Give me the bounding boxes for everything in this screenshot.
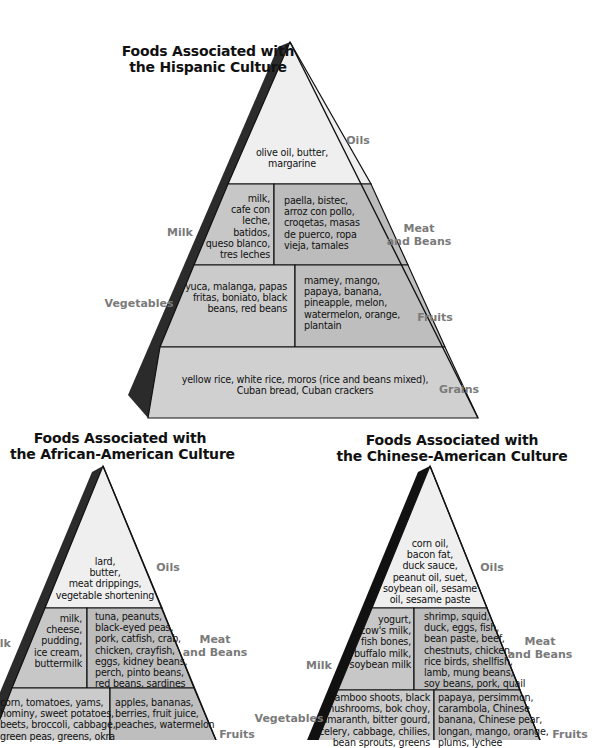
food-line: tuna, peanuts, xyxy=(95,611,195,622)
hispanic-label-oils: Oils xyxy=(338,134,378,147)
food-line: bamboo shoots, black xyxy=(318,692,430,703)
food-line: fritas, boniato, black xyxy=(180,292,287,303)
food-line: soybean oil, sesame xyxy=(375,583,485,594)
food-line: yellow rice, white rice, moros (rice and… xyxy=(160,374,450,385)
food-line: milk, xyxy=(200,193,270,204)
label-line: Meat xyxy=(180,633,250,646)
food-line: paella, bistec, xyxy=(284,195,384,206)
food-line: apples, bananas, xyxy=(115,697,210,708)
food-line: pineapple, melon, xyxy=(304,297,414,308)
food-line: arroz con pollo, xyxy=(284,206,384,217)
food-line: watermelon, orange, xyxy=(304,309,414,320)
food-line: tres leches xyxy=(200,249,270,260)
food-line: plantain xyxy=(304,320,414,331)
food-line: beets, broccoli, cabbage, xyxy=(0,719,102,730)
title-line: Foods Associated with xyxy=(108,43,308,59)
food-line: corn oil, xyxy=(375,538,485,549)
food-line: croqetas, masas xyxy=(284,217,384,228)
food-line: cheese, xyxy=(20,624,82,635)
food-line: soybean milk xyxy=(345,659,411,670)
food-line: ice cream, xyxy=(20,647,82,658)
chinese-american-label-milk: Milk xyxy=(299,659,339,672)
food-line: cafe con xyxy=(200,204,270,215)
food-line: peanut oil, suet, xyxy=(375,572,485,583)
label-line: Meat xyxy=(384,222,454,235)
chinese-american-label-fruits: Fruits xyxy=(545,728,595,741)
food-line: butter, xyxy=(50,567,160,578)
food-line: amaranth, bitter gourd, xyxy=(318,714,430,725)
food-line: vieja, tamales xyxy=(284,240,384,251)
food-line: black-eyed peas, xyxy=(95,622,195,633)
chinese-american-oils-text: corn oil, bacon fat, duck sauce, peanut … xyxy=(375,538,485,605)
food-line: papaya, banana, xyxy=(304,286,414,297)
chinese-american-label-oils: Oils xyxy=(472,561,512,574)
food-line: longan, mango, orange, xyxy=(438,726,543,737)
african-american-label-milk: Milk xyxy=(0,637,18,650)
food-line: banana, Chinese pear, xyxy=(438,714,543,725)
food-line: peaches, watermelon xyxy=(115,719,210,730)
hispanic-label-fruits: Fruits xyxy=(410,311,460,324)
food-line: beans, red beans xyxy=(180,303,287,314)
chinese-american-fruits-text: papaya, persimmon, carambola, Chinese ba… xyxy=(438,692,543,748)
food-line: berries, fruit juice, xyxy=(115,708,210,719)
food-line: red beans, sardines xyxy=(95,678,195,689)
african-american-oils-text: lard, butter, meat drippings, vegetable … xyxy=(50,556,160,601)
food-line: batidos, xyxy=(200,227,270,238)
food-line: olive oil, butter, xyxy=(232,147,352,158)
food-line: perch, pinto beans, xyxy=(95,667,195,678)
hispanic-label-vegetables: Vegetables xyxy=(104,297,174,310)
title-line: Foods Associated with xyxy=(334,432,570,448)
food-line: yuca, malanga, papas xyxy=(180,281,287,292)
food-line: vegetable shortening xyxy=(50,590,160,601)
label-line: Meat xyxy=(505,635,575,648)
food-line: shrimp, squid, xyxy=(424,611,524,622)
african-american-label-meat: Meat and Beans xyxy=(180,633,250,659)
african-american-label-oils: Oils xyxy=(148,561,188,574)
hispanic-label-grains: Grains xyxy=(434,383,484,396)
chinese-american-title: Foods Associated with the Chinese-Americ… xyxy=(334,432,570,464)
food-line: bacon fat, xyxy=(375,549,485,560)
food-line: Cuban bread, Cuban crackers xyxy=(160,385,450,396)
food-line: oil, sesame paste xyxy=(375,594,485,605)
african-american-title: Foods Associated with the African-Americ… xyxy=(10,430,230,462)
african-american-milk-text: milk, cheese, pudding, ice cream, butter… xyxy=(20,613,82,669)
food-line: bean sprouts, greens xyxy=(318,737,430,748)
title-line: the African-American Culture xyxy=(10,446,230,462)
food-line: lamb, mung beans, xyxy=(424,667,524,678)
food-line: meat drippings, xyxy=(50,578,160,589)
hispanic-label-meat: Meat and Beans xyxy=(384,222,454,248)
hispanic-meat-text: paella, bistec, arroz con pollo, croqeta… xyxy=(284,195,384,251)
label-line: and Beans xyxy=(180,646,250,659)
food-line: buttermilk xyxy=(20,658,82,669)
food-line: lard, xyxy=(50,556,160,567)
food-line: de puerco, ropa xyxy=(284,229,384,240)
food-line: fish bones, xyxy=(345,636,411,647)
food-line: plums, lychee xyxy=(438,737,543,748)
food-line: corn, tomatoes, yams, xyxy=(0,697,102,708)
african-american-fruits-text: apples, bananas, berries, fruit juice, p… xyxy=(115,697,210,731)
food-line: carambola, Chinese xyxy=(438,703,543,714)
food-line: buffalo milk, xyxy=(345,648,411,659)
african-american-vegetables-text: corn, tomatoes, yams, hominy, sweet pota… xyxy=(0,697,102,742)
hispanic-label-milk: Milk xyxy=(160,226,200,239)
label-line: and Beans xyxy=(384,235,454,248)
food-line: leche, xyxy=(200,215,270,226)
african-american-label-fruits: Fruits xyxy=(212,728,262,741)
hispanic-milk-text: milk, cafe con leche, batidos, queso bla… xyxy=(200,193,270,260)
food-line: mushrooms, bok choy, xyxy=(318,703,430,714)
food-line: soy beans, pork, quail xyxy=(424,678,524,689)
food-line: mamey, mango, xyxy=(304,275,414,286)
food-line: pudding, xyxy=(20,635,82,646)
food-line: cow's milk, xyxy=(345,625,411,636)
hispanic-title: Foods Associated with the Hispanic Cultu… xyxy=(108,43,308,75)
food-line: hominy, sweet potatoes, xyxy=(0,708,102,719)
hispanic-grains-text: yellow rice, white rice, moros (rice and… xyxy=(160,374,450,396)
food-line: duck sauce, xyxy=(375,560,485,571)
food-line: margarine xyxy=(232,158,352,169)
food-line: milk, xyxy=(20,613,82,624)
food-line: papaya, persimmon, xyxy=(438,692,543,703)
chinese-american-vegetables-text: bamboo shoots, black mushrooms, bok choy… xyxy=(318,692,430,748)
label-line: and Beans xyxy=(505,648,575,661)
chinese-american-milk-text: yogurt, cow's milk, fish bones, buffalo … xyxy=(345,614,411,670)
food-line: green peas, greens, okra xyxy=(0,731,102,742)
